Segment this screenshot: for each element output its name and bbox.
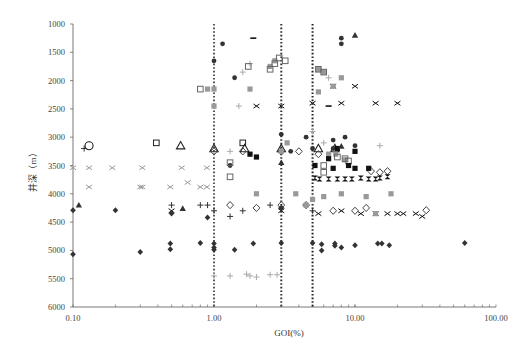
- x-tick-label: 1.00: [207, 313, 222, 323]
- series-square-gray: [205, 58, 394, 216]
- series-diamond-dark: [70, 207, 467, 257]
- x-tick-label: 10.00: [345, 313, 364, 323]
- y-tick-label: 6000: [48, 302, 65, 312]
- y-tick-label: 2500: [48, 104, 65, 114]
- data-points: [70, 32, 468, 280]
- series-open-triangle: [176, 141, 339, 151]
- y-tick-label: 3500: [48, 161, 65, 171]
- y-tick-label: 4500: [48, 217, 65, 227]
- y-tick-label: 3000: [48, 132, 65, 142]
- series-dot-dark: [212, 36, 358, 211]
- series-x-light: [70, 166, 210, 189]
- series-square-dark: [247, 146, 371, 171]
- y-tick-label: 1500: [48, 47, 65, 57]
- x-tick-label: 100.00: [484, 313, 507, 323]
- y-tick-label: 5000: [48, 245, 65, 255]
- y-axis-title: 井深（m）: [27, 148, 38, 191]
- series-open-square: [154, 140, 246, 146]
- scatter-chart: 1000150020002500300035004000450050005500…: [0, 0, 523, 350]
- x-axis-title: GOI(%): [274, 328, 304, 338]
- series-x-dark: [169, 84, 426, 218]
- y-tick-label: 4000: [48, 189, 65, 199]
- x-tick-label: 0.10: [66, 313, 81, 323]
- y-tick-label: 1000: [48, 19, 65, 29]
- series-triangle-dark: [76, 32, 359, 211]
- y-tick-label: 5500: [48, 274, 65, 284]
- y-tick-label: 2000: [48, 76, 65, 86]
